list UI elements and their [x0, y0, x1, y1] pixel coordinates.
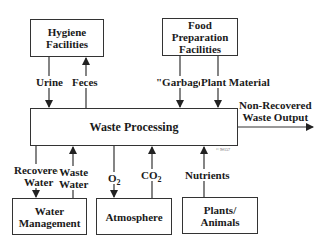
- co2-label: CO2: [140, 169, 163, 181]
- hygiene-facilities-box: Hygiene Facilities: [30, 19, 104, 57]
- hygiene-label-line1: Hygiene: [46, 26, 88, 38]
- water-management-line1: Water: [19, 205, 81, 217]
- waste-processing-label: Waste Processing: [90, 121, 179, 133]
- waste-water-line1: Waste: [59, 166, 88, 178]
- recovered-water-label: Recovered Water: [13, 164, 64, 188]
- recovered-water-line1: Recovered: [14, 164, 63, 176]
- nutrients-label: Nutrients: [184, 169, 231, 181]
- co2-base: CO: [141, 169, 158, 181]
- co2-subscript: 2: [158, 175, 162, 184]
- water-management-line2: Management: [19, 217, 81, 229]
- non-recovered-label: Non-Recovered Waste Output: [239, 99, 312, 123]
- copyright-mark: © 9#157: [216, 147, 230, 152]
- waste-water-line2: Water: [59, 178, 88, 190]
- o2-label: O2: [107, 172, 122, 184]
- o2-subscript: 2: [117, 178, 121, 187]
- water-management-box: Water Management: [12, 198, 87, 235]
- recovered-water-line2: Water: [14, 176, 63, 188]
- plants-animals-line2: Animals: [200, 216, 239, 228]
- food-label-line1: Food: [172, 19, 229, 31]
- hygiene-label-line2: Facilities: [46, 38, 88, 50]
- o2-base: O: [108, 172, 117, 184]
- non-recovered-line2: Waste Output: [239, 111, 312, 123]
- atmosphere-label: Atmosphere: [105, 211, 162, 223]
- food-preparation-box: Food Preparation Facilities: [162, 18, 238, 56]
- feces-label: Feces: [71, 76, 99, 88]
- plants-animals-box: Plants/ Animals: [182, 197, 258, 234]
- plants-animals-line1: Plants/: [200, 204, 239, 216]
- urine-label: Urine: [35, 76, 64, 88]
- atmosphere-box: Atmosphere: [96, 198, 172, 235]
- food-label-line2: Preparation: [172, 31, 229, 43]
- food-label-line3: Facilities: [172, 43, 229, 55]
- non-recovered-line1: Non-Recovered: [239, 99, 312, 111]
- plant-material-label: Plant Material: [200, 76, 271, 88]
- waste-water-label: Waste Water: [58, 166, 89, 190]
- waste-processing-box: Waste Processing: [30, 108, 238, 146]
